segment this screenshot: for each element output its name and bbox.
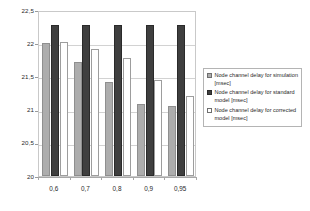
legend-swatch-icon — [207, 90, 212, 95]
legend-item-label: Node channel delay for corrected model [… — [215, 107, 299, 123]
bar — [186, 96, 194, 176]
y-axis-tick-mark — [35, 77, 38, 78]
y-axis-tick-label: 22 — [4, 41, 34, 47]
bar — [82, 25, 90, 176]
y-axis-tick-label: 22,5 — [4, 8, 34, 14]
y-axis-tick-label: 21,5 — [4, 74, 34, 80]
bar — [137, 104, 145, 176]
bar — [51, 25, 59, 176]
bar — [105, 82, 113, 176]
legend-swatch-icon — [207, 108, 212, 113]
x-axis-tick-mark — [38, 177, 39, 180]
legend: Node channel delay for simulation [msec]… — [203, 68, 302, 127]
x-axis-tick-mark — [196, 177, 197, 180]
legend-item-label: Node channel delay for simulation [msec] — [215, 72, 299, 88]
legend-item: Node channel delay for corrected model [… — [207, 107, 298, 123]
bar — [74, 62, 82, 176]
x-axis-tick-mark — [164, 177, 165, 180]
x-axis-tick-label: 0,7 — [70, 186, 100, 192]
bar — [123, 58, 131, 176]
bar — [146, 25, 154, 176]
bar-chart: 22,52221,52120,520 0,60,70,80,90,95 Node… — [0, 0, 310, 211]
x-axis-tick-mark — [101, 177, 102, 180]
bar — [91, 49, 99, 176]
y-axis-tick-mark — [35, 11, 38, 12]
x-axis-tick-mark — [133, 177, 134, 180]
legend-item-label: Node channel delay for standard model [m… — [215, 89, 299, 105]
bar — [168, 106, 176, 176]
y-axis-tick-label: 20 — [4, 174, 34, 180]
x-axis-tick-label: 0,95 — [165, 186, 195, 192]
y-axis-tick-mark — [35, 111, 38, 112]
x-axis-tick-label: 0,9 — [134, 186, 164, 192]
legend-item: Node channel delay for simulation [msec] — [207, 72, 298, 88]
y-axis-tick-label: 21 — [4, 107, 34, 113]
x-axis-line — [38, 177, 196, 178]
bar — [42, 43, 50, 176]
legend-item: Node channel delay for standard model [m… — [207, 89, 298, 105]
legend-swatch-icon — [207, 73, 212, 78]
y-axis-tick-label: 20,5 — [4, 140, 34, 146]
x-axis-tick-label: 0,6 — [39, 186, 69, 192]
y-axis-tick-mark — [35, 44, 38, 45]
bar — [154, 80, 162, 176]
bar — [60, 42, 68, 176]
x-axis-tick-mark — [70, 177, 71, 180]
bar — [114, 25, 122, 176]
plot-area — [38, 11, 196, 177]
y-axis-tick-mark — [35, 144, 38, 145]
x-axis-tick-label: 0,8 — [102, 186, 132, 192]
bar — [177, 25, 185, 176]
